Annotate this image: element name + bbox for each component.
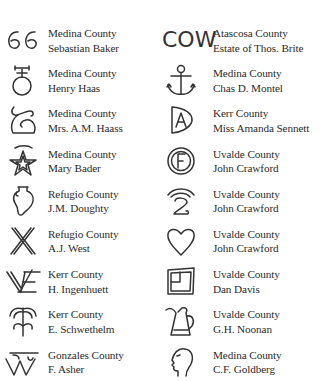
- county-label: Medina County: [213, 66, 283, 81]
- owner-label: F. Asher: [48, 362, 124, 377]
- brand-entry: Uvalde County John Crawford: [160, 183, 323, 223]
- brand-entry: Medina County Chas D. Montel: [160, 62, 323, 102]
- county-label: Kerr County: [48, 307, 114, 322]
- brand-text: Uvalde County Dan Davis: [213, 267, 280, 296]
- county-label: Refugio County: [48, 187, 118, 202]
- brand-entry: Uvalde County Dan Davis: [160, 263, 323, 303]
- owner-label: C.F. Goldberg: [213, 362, 282, 377]
- county-label: Medina County: [48, 106, 123, 121]
- brand-text: Medina County Chas D. Montel: [213, 66, 283, 95]
- brand-entry: Uvalde County John Crawford: [160, 223, 323, 263]
- brand-text: Kerr County E. Schwethelm: [48, 307, 114, 336]
- star-brand-icon: [4, 144, 42, 178]
- county-label: Kerr County: [213, 106, 309, 121]
- palm-brand-icon: [4, 304, 42, 338]
- brand-row: Kerr County E. Schwethelm Uvalde County …: [0, 303, 323, 343]
- county-label: Gonzales County: [48, 348, 124, 363]
- brand-text: Uvalde County G.H. Noonan: [213, 307, 280, 336]
- cow-brand-icon: COW: [162, 23, 212, 57]
- brand-text: Medina County Mary Bader: [48, 147, 117, 176]
- brand-row: Gonzales County F. Asher Medina County C…: [0, 344, 323, 381]
- brand-row: Medina County Mrs. A.M. Haass Kerr Count…: [0, 102, 323, 142]
- brand-entry: COW Atascosa County Estate of Thos. Brit…: [160, 22, 323, 62]
- owner-label: Henry Haas: [48, 81, 117, 96]
- brand-entry: Medina County Henry Haas: [0, 62, 160, 102]
- owner-label: Dan Davis: [213, 282, 280, 297]
- brand-row: Refugio County A.J. West Uvalde County J…: [0, 223, 323, 263]
- owner-label: Sebastian Baker: [48, 41, 119, 56]
- ve-brand-icon: [4, 264, 42, 298]
- box-brand-icon: [162, 264, 200, 298]
- brand-entry: Uvalde County G.H. Noonan: [160, 303, 323, 343]
- brand-text: Uvalde County John Crawford: [213, 187, 280, 216]
- brand-text: Uvalde County John Crawford: [213, 147, 280, 176]
- brand-entry: Kerr County Miss Amanda Sennett: [160, 102, 323, 142]
- county-label: Uvalde County: [213, 267, 280, 282]
- 66-brand-icon: [4, 23, 42, 57]
- brand-entry: Medina County Mrs. A.M. Haass: [0, 102, 160, 142]
- two-rainbow-brand-icon: [162, 184, 200, 218]
- brand-row: Medina County Mary Bader Uvalde County J…: [0, 143, 323, 183]
- brand-text: Medina County C.F. Goldberg: [213, 348, 282, 377]
- looped-s-brand-icon: [4, 103, 42, 137]
- county-label: Uvalde County: [213, 147, 280, 162]
- owner-label: H. Ingenhuett: [48, 282, 108, 297]
- brand-entry: Gonzales County F. Asher: [0, 344, 160, 381]
- brand-entry: Medina County Mary Bader: [0, 143, 160, 183]
- owner-label: Estate of Thos. Brite: [213, 41, 303, 56]
- heart-brand-icon: [162, 224, 200, 258]
- brand-text: Gonzales County F. Asher: [48, 348, 124, 377]
- owner-label: Mary Bader: [48, 161, 117, 176]
- urn-brand-icon: [4, 184, 42, 218]
- county-label: Refugio County: [48, 227, 118, 242]
- county-label: Atascosa County: [213, 26, 303, 41]
- brand-row: Refugio County J.M. Doughty Uvalde Count…: [0, 183, 323, 223]
- county-label: Medina County: [48, 26, 119, 41]
- brand-entry: Medina County Sebastian Baker: [0, 22, 160, 62]
- brand-text: Medina County Sebastian Baker: [48, 26, 119, 55]
- owner-label: J.M. Doughty: [48, 201, 118, 216]
- owner-label: A.J. West: [48, 241, 118, 256]
- brand-text: Medina County Mrs. A.M. Haass: [48, 106, 123, 135]
- brand-entry: Refugio County J.M. Doughty: [0, 183, 160, 223]
- anchor-brand-icon: [162, 63, 200, 97]
- brand-entry: Uvalde County John Crawford: [160, 143, 323, 183]
- owner-label: John Crawford: [213, 161, 280, 176]
- cow-glyph: COW: [162, 27, 216, 52]
- brand-text: Kerr County H. Ingenhuett: [48, 267, 108, 296]
- f-in-circle-brand-icon: [162, 144, 200, 178]
- a-in-shield-brand-icon: [162, 103, 200, 137]
- brand-row: Medina County Henry Haas Medina County C…: [0, 62, 323, 102]
- brand-entry: Kerr County E. Schwethelm: [0, 303, 160, 343]
- owner-label: Miss Amanda Sennett: [213, 121, 309, 136]
- county-label: Kerr County: [48, 267, 108, 282]
- county-label: Medina County: [213, 348, 282, 363]
- owner-label: John Crawford: [213, 201, 280, 216]
- owner-label: G.H. Noonan: [213, 322, 280, 337]
- brand-row: Medina County Sebastian Baker COW Atasco…: [0, 22, 323, 62]
- brand-text: Uvalde County John Crawford: [213, 227, 280, 256]
- brand-grid: Medina County Sebastian Baker COW Atasco…: [0, 22, 323, 381]
- tw-brand-icon: [4, 345, 42, 379]
- county-label: Medina County: [48, 66, 117, 81]
- county-label: Uvalde County: [213, 187, 280, 202]
- brand-text: Refugio County A.J. West: [48, 227, 118, 256]
- county-label: Uvalde County: [213, 227, 280, 242]
- county-label: Uvalde County: [213, 307, 280, 322]
- owner-label: Mrs. A.M. Haass: [48, 121, 123, 136]
- brand-text: Kerr County Miss Amanda Sennett: [213, 106, 309, 135]
- pitcher-brand-icon: [162, 304, 200, 338]
- crossed-lines-brand-icon: [4, 224, 42, 258]
- owner-label: Chas D. Montel: [213, 81, 283, 96]
- brand-text: Refugio County J.M. Doughty: [48, 187, 118, 216]
- head-brand-icon: [162, 345, 200, 379]
- owner-label: John Crawford: [213, 241, 280, 256]
- brand-row: Kerr County H. Ingenhuett Uvalde County …: [0, 263, 323, 303]
- county-label: Medina County: [48, 147, 117, 162]
- owner-label: E. Schwethelm: [48, 322, 114, 337]
- venus-cross-brand-icon: [4, 63, 42, 97]
- brand-text: Atascosa County Estate of Thos. Brite: [213, 26, 303, 55]
- brand-entry: Kerr County H. Ingenhuett: [0, 263, 160, 303]
- brand-entry: Refugio County A.J. West: [0, 223, 160, 263]
- brand-entry: Medina County C.F. Goldberg: [160, 344, 323, 381]
